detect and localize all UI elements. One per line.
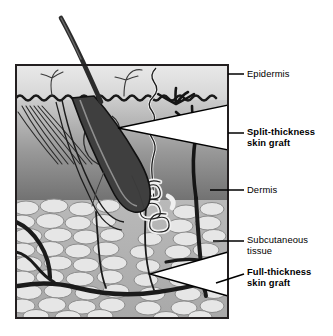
skin-graft-diagram: Epidermis Split-thickness skin graft Der… (0, 0, 333, 336)
label-epidermis: Epidermis (247, 68, 290, 79)
label-dermis: Dermis (247, 184, 277, 195)
label-full-thickness-skin-graft: Full-thickness skin graft (247, 266, 311, 288)
label-split-thickness-skin-graft: Split-thickness skin graft (247, 126, 315, 148)
hair-shaft-highlight (61, 18, 81, 59)
label-subcutaneous-tissue: Subcutaneous tissue (247, 234, 308, 256)
